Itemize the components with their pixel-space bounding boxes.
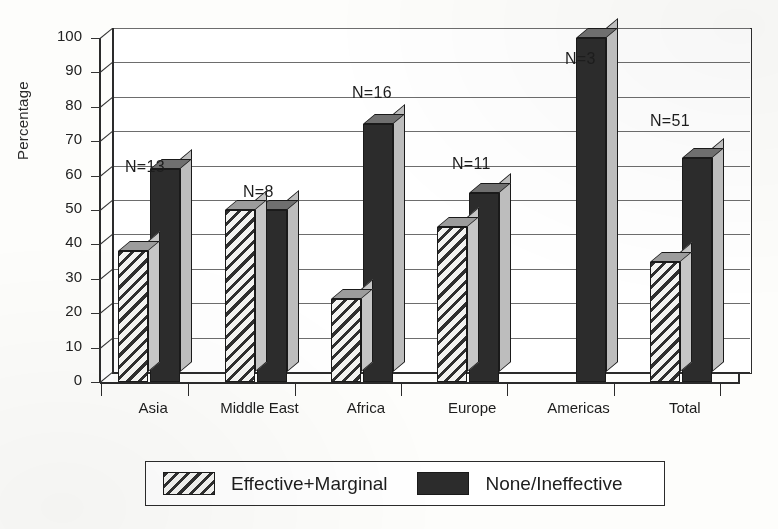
y-tick-label: 100: [38, 27, 82, 44]
y-tick-mark: [91, 313, 100, 314]
legend-label: None/Ineffective: [485, 473, 622, 495]
y-tick-label: 80: [38, 96, 82, 113]
bar-none-ineffective-americas: [576, 38, 606, 382]
x-tick-mark: [614, 383, 615, 396]
hatch-swatch: [163, 472, 215, 495]
legend-label: Effective+Marginal: [231, 473, 387, 495]
y-tick-depth-connector: [100, 28, 113, 39]
y-tick-label: 70: [38, 130, 82, 147]
x-tick-mark: [295, 383, 296, 396]
y-tick-mark: [91, 72, 100, 73]
y-tick-depth-connector: [100, 303, 113, 314]
gridline: [112, 200, 750, 201]
x-axis-line: [100, 382, 738, 384]
y-tick-mark: [91, 382, 100, 383]
annotation-n-total: N=51: [650, 112, 690, 130]
bar-effective-marginal-asia: [118, 251, 148, 382]
bar-front: [118, 251, 148, 382]
y-tick-depth-connector: [100, 234, 113, 245]
bar-side: [255, 190, 267, 372]
y-tick-label: 0: [38, 371, 82, 388]
chart-legend: Effective+MarginalNone/Ineffective: [145, 461, 665, 506]
y-tick-depth-connector: [100, 166, 113, 177]
annotation-n-americas: N=3: [565, 50, 596, 68]
y-tick-label: 20: [38, 302, 82, 319]
bar-effective-marginal-europe: [437, 227, 467, 382]
y-tick-depth-connector: [100, 200, 113, 211]
gridline: [112, 97, 750, 98]
bar-side: [712, 138, 724, 372]
gridline: [112, 28, 750, 29]
y-tick-mark: [91, 210, 100, 211]
y-tick-mark: [91, 38, 100, 39]
bar-front: [331, 299, 361, 382]
y-tick-depth-connector: [100, 338, 113, 349]
bar-side: [148, 231, 160, 372]
dark-swatch: [417, 472, 469, 495]
y-tick-label: 60: [38, 165, 82, 182]
y-tick-mark: [91, 244, 100, 245]
y-tick-label: 30: [38, 268, 82, 285]
y-tick-label: 10: [38, 337, 82, 354]
y-tick-mark: [91, 141, 100, 142]
bar-front: [576, 38, 606, 382]
gridline: [112, 131, 750, 132]
bar-front: [650, 262, 680, 382]
bar-side: [393, 104, 405, 372]
x-tick-mark: [101, 383, 102, 396]
bar-side: [287, 190, 299, 372]
bar-side: [467, 207, 479, 372]
plot-area: 1009080706050403020100AsiaMiddle EastAfr…: [0, 0, 778, 529]
bar-side: [680, 242, 692, 372]
annotation-n-europe: N=11: [452, 155, 491, 173]
y-tick-depth-connector: [100, 269, 113, 280]
x-tick-mark: [507, 383, 508, 396]
annotation-n-middle-east: N=8: [243, 183, 274, 201]
y-tick-depth-connector: [100, 97, 113, 108]
y-tick-label: 90: [38, 61, 82, 78]
gridline: [112, 166, 750, 167]
bar-side: [499, 173, 511, 372]
annotation-n-africa: N=16: [352, 84, 392, 102]
bar-front: [437, 227, 467, 382]
x-tick-mark: [720, 383, 721, 396]
x-tick-mark: [188, 383, 189, 396]
y-tick-label: 40: [38, 233, 82, 250]
bar-effective-marginal-middle-east: [225, 210, 255, 382]
bar-effective-marginal-africa: [331, 299, 361, 382]
y-tick-label: 50: [38, 199, 82, 216]
y-tick-depth-connector: [100, 62, 113, 73]
bar-chart-figure: Percentage 1009080706050403020100AsiaMid…: [0, 0, 778, 529]
x-axis-label-total: Total: [612, 399, 758, 416]
annotation-n-asia: N=13: [125, 158, 165, 176]
x-tick-mark: [401, 383, 402, 396]
bar-side: [606, 18, 618, 372]
y-tick-depth-connector: [100, 131, 113, 142]
plot-right-edge: [738, 372, 740, 384]
bar-effective-marginal-total: [650, 262, 680, 382]
gridline: [112, 62, 750, 63]
gridline: [112, 234, 750, 235]
bar-side: [180, 149, 192, 372]
bar-front: [225, 210, 255, 382]
